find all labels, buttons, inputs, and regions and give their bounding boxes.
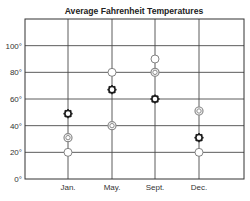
- y-tick-label: 40°: [10, 122, 22, 131]
- gray-ring-marker: [108, 122, 116, 130]
- dark-gear-marker: [150, 94, 159, 103]
- y-tick-label: 80°: [10, 68, 22, 77]
- gray-ring-marker: [151, 68, 159, 76]
- y-tick-label: 20°: [10, 148, 22, 157]
- x-axis-ticks: Jan.May.Sept.Dec.: [60, 183, 207, 192]
- x-tick-label: May.: [104, 183, 121, 192]
- chart: Average Fahrenheit Temperatures 0°20°40°…: [0, 0, 250, 201]
- white-circle-marker: [108, 68, 116, 76]
- y-tick-label: 100°: [5, 42, 22, 51]
- chart-title: Average Fahrenheit Temperatures: [65, 6, 204, 16]
- y-tick-label: 60°: [10, 95, 22, 104]
- white-circle-marker: [64, 148, 72, 156]
- x-tick-label: Sept.: [146, 183, 165, 192]
- dark-gear-marker: [107, 85, 116, 94]
- x-tick-label: Jan.: [60, 183, 75, 192]
- x-tick-label: Dec.: [191, 183, 207, 192]
- white-circle-marker: [151, 55, 159, 63]
- grid: [25, 19, 244, 179]
- dark-gear-marker: [63, 109, 72, 118]
- y-tick-label: 0°: [14, 175, 22, 184]
- dark-gear-marker: [194, 133, 203, 142]
- data-markers: [63, 55, 203, 156]
- y-axis-ticks: 0°20°40°60°80°100°: [5, 42, 22, 184]
- gray-ring-marker: [64, 134, 72, 142]
- white-circle-marker: [195, 148, 203, 156]
- gray-ring-marker: [195, 107, 203, 115]
